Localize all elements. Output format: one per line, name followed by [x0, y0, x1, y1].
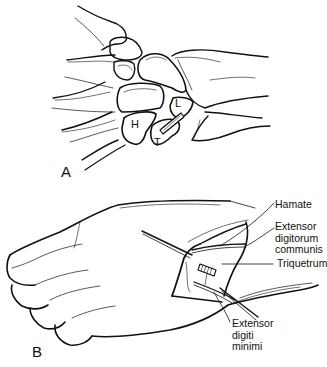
- figure: A B H T L Hamate Extensor digitorum comm…: [0, 0, 327, 367]
- screw-graphic-a: [160, 113, 184, 134]
- panel-a-label: A: [61, 163, 71, 180]
- triquetrum-letter: T: [154, 136, 161, 148]
- illustration: [0, 0, 327, 367]
- callout-hamate: Hamate: [275, 199, 312, 211]
- lunate-letter: L: [175, 97, 181, 109]
- callout-extensor-digitorum-communis: Extensor digitorum communis: [275, 221, 323, 256]
- screw-graphic-b: [198, 264, 216, 285]
- callout-extensor-digiti-minimi: Extensor digiti minimi: [232, 318, 273, 353]
- callout-triquetrum: Triquetrum: [277, 258, 327, 270]
- panel-a-drawing: [52, 6, 270, 170]
- leader-edc: [246, 228, 274, 246]
- hamate-letter: H: [131, 118, 139, 130]
- panel-b-label: B: [32, 343, 42, 360]
